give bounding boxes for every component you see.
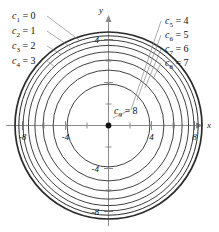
contour-svg: -8 -4 4 8 4 -4 -8 x y c1 = 0 c2 = 1 c3 =…	[0, 0, 219, 232]
c4-value: 3	[31, 55, 36, 66]
c9-eq: =	[122, 105, 133, 116]
contour-label-c2: c2 = 1	[12, 25, 36, 39]
contour-labels-right: c5 = 4 c6 = 5 c7 = 6 c8 = 7	[165, 15, 189, 71]
origin-point-c9	[106, 123, 112, 129]
c7-value: 6	[184, 43, 189, 54]
contour-label-c9: c9 = 8	[114, 105, 138, 119]
contour-figure: -8 -4 4 8 4 -4 -8 x y c1 = 0 c2 = 1 c3 =…	[0, 0, 219, 232]
c6-eq: =	[173, 29, 184, 40]
c7-eq: =	[173, 43, 184, 54]
c8-value: 7	[184, 57, 189, 68]
x-ticklabel-4: 4	[149, 132, 154, 142]
c1-value: 0	[31, 10, 36, 21]
y-axis-arrow	[105, 15, 111, 22]
contour-label-c3: c3 = 2	[12, 40, 36, 54]
c5-eq: =	[173, 15, 184, 26]
leader-lines-left	[47, 16, 79, 66]
c8-eq: =	[173, 57, 184, 68]
c6-value: 5	[184, 29, 189, 40]
leader-c2	[47, 31, 71, 47]
leader-c6	[137, 35, 161, 100]
c3-eq: =	[20, 40, 31, 51]
x-ticklabel--8: -8	[19, 132, 27, 142]
c2-value: 1	[31, 25, 36, 36]
contour-labels-left: c1 = 0 c2 = 1 c3 = 2 c4 = 3	[12, 10, 36, 69]
c3-value: 2	[31, 40, 36, 51]
y-ticklabel--4: -4	[92, 164, 100, 174]
c2-eq: =	[20, 25, 31, 36]
contour-label-c4: c4 = 3	[12, 55, 36, 69]
y-ticklabel-8: 4	[95, 35, 100, 45]
contour-label-c5: c5 = 4	[165, 15, 189, 29]
y-ticklabel--8: -8	[92, 207, 100, 217]
contour-label-c6: c6 = 5	[165, 29, 189, 43]
c9-value: 8	[133, 105, 138, 116]
c4-eq: =	[20, 55, 31, 66]
contour-label-c1: c1 = 0	[12, 10, 36, 24]
x-ticklabel--4: -4	[62, 132, 70, 142]
leader-c1	[47, 16, 79, 40]
x-ticklabel-8: 8	[192, 132, 197, 142]
contour-label-c8: c8 = 7	[165, 57, 189, 71]
y-axis-label: y	[98, 5, 103, 15]
contour-label-c7: c7 = 6	[165, 43, 189, 57]
x-axis-label: x	[206, 120, 211, 130]
c1-eq: =	[20, 10, 31, 21]
c5-value: 4	[184, 15, 189, 26]
